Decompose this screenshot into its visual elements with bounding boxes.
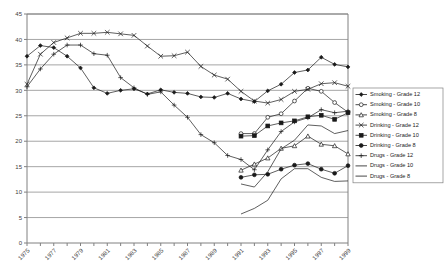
data-point [239,168,243,172]
data-point [293,99,297,103]
series-line [241,169,348,214]
data-point [225,77,230,82]
data-point [266,156,270,160]
legend-label: Drugs - Grade 8 [370,173,410,179]
legend-label: Smoking - Grade 10 [370,101,420,107]
y-tick-label: 0 [19,240,23,246]
data-point [293,163,297,167]
legend-label: Drugs - Grade 12 [370,152,413,158]
x-tick-label: 1991 [231,247,245,261]
x-tick-label: 1975 [17,247,31,261]
series-4 [239,111,350,138]
series-8 [241,169,348,214]
data-point [333,101,337,105]
data-point [266,115,270,119]
data-point [265,148,270,153]
data-point [52,46,56,50]
legend-label: Drinking - Grade 8 [370,142,416,148]
data-point [186,91,190,95]
data-point [239,97,243,101]
data-point [199,95,203,99]
legend-label: Drugs - Grade 10 [370,162,413,168]
legend-label: Smoking - Grade 12 [370,91,420,97]
legend-label: Smoking - Grade 8 [370,111,417,117]
y-tick-label: 15 [15,164,22,170]
x-tick-label: 1997 [311,247,325,261]
x-tick-label: 1989 [204,247,218,261]
data-point [319,167,323,171]
data-point [279,97,284,102]
data-point [119,88,123,92]
y-tick-label: 10 [15,189,22,195]
data-point [105,53,110,58]
data-point [92,86,96,90]
data-point [306,162,310,166]
legend: Smoking - Grade 12Smoking - Grade 10Smok… [353,88,443,183]
x-axis-ticks: 1975197719791981198319851987198919911993… [17,243,352,261]
data-point [319,107,324,112]
data-point [252,173,256,177]
y-tick-label: 35 [15,62,22,68]
x-tick-label: 1987 [178,247,192,261]
data-point [346,65,350,69]
series-line [241,125,348,187]
x-tick-label: 1995 [285,247,299,261]
data-point [279,112,283,116]
y-tick-label: 5 [19,215,23,221]
chart-container: 0510152025303540451975197719791981198319… [0,0,446,275]
data-point [292,144,296,148]
data-point [346,164,350,168]
series-7 [241,125,348,187]
series-line [27,45,348,170]
data-point [306,134,310,138]
data-point [65,43,70,48]
data-point [319,89,323,93]
data-point [346,152,350,156]
data-point [332,110,337,115]
x-tick-label: 1981 [97,247,111,261]
data-point [279,129,284,134]
series-1 [239,86,350,135]
data-point [359,144,363,148]
data-point [359,133,363,137]
legend-label: Drinking - Grade 10 [370,132,419,138]
x-tick-label: 1999 [338,247,352,261]
x-tick-label: 1983 [124,247,138,261]
data-point [252,134,256,138]
data-point [105,91,109,95]
data-point [78,43,83,48]
legend-label: Drinking - Grade 12 [370,122,419,128]
y-tick-label: 20 [15,138,22,144]
series-line [241,88,348,133]
data-point [145,44,150,49]
x-tick-label: 1979 [71,247,85,261]
data-point [226,91,230,95]
data-point [319,113,323,117]
data-point [38,52,43,57]
substance-use-trends-chart: 0510152025303540451975197719791981198319… [0,0,446,275]
data-point [333,62,337,66]
data-point [185,50,190,55]
x-tick-label: 1977 [44,247,58,261]
data-point [252,162,256,166]
data-point [333,117,337,121]
data-point [266,124,270,128]
y-tick-label: 45 [15,11,22,17]
data-point [359,103,363,107]
x-tick-label: 1993 [258,247,272,261]
y-tick-label: 25 [15,113,22,119]
data-point [172,90,176,94]
data-point [239,134,243,138]
data-point [239,175,243,179]
y-tick-label: 30 [15,88,22,94]
data-point [212,73,217,78]
data-point [92,51,97,56]
data-point [239,89,244,94]
data-point [279,167,283,171]
data-point [333,171,337,175]
data-point [145,92,150,97]
x-tick-label: 1985 [151,247,165,261]
y-tick-label: 40 [15,37,22,43]
data-point [51,40,56,45]
data-point [279,121,283,125]
